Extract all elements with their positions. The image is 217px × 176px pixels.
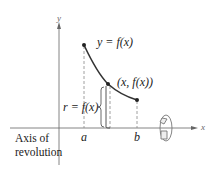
x-axis-label: x [201,123,205,132]
tick-label-a: a [81,131,87,143]
axis-of-revolution-label: Axis of revolution [15,131,62,159]
y-axis-label: y [57,14,61,23]
curve-end-point [135,98,139,102]
curve-middle-point [106,82,110,86]
axis-of-revolution-line1: Axis of [15,131,62,145]
disk-method-diagram: y x y = f(x) (x, f(x)) r = f(x) a b Axis… [0,0,217,176]
tick-label-b: b [134,131,140,143]
curve-equation-label: y = f(x) [97,36,133,48]
curve-start-point [82,43,86,47]
representative-rectangle [106,86,110,128]
point-label: (x, f(x)) [117,76,153,88]
curve-y-equals-f-of-x [84,45,137,100]
axis-of-revolution-line2: revolution [15,145,62,159]
radius-brace [98,87,104,127]
radius-label: r = f(x) [63,101,98,113]
